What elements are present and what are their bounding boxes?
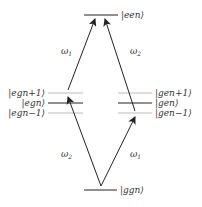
label-gen-minus: |gen−1⟩ [155,108,192,119]
omega-upper-right: ω2 [130,46,141,57]
omega-lower-left: ω2 [61,149,72,160]
label-egn-minus: |egn−1⟩ [8,108,45,119]
arrow-upper-right [105,19,135,111]
omega-upper-left: ω1 [61,46,72,57]
label-ggn: |ggn⟩ [120,185,144,196]
energy-level-diagram: |een⟩ |egn+1⟩ |egn⟩ |egn−1⟩ |gen+1⟩ |gen… [0,0,202,207]
label-een: |een⟩ [121,10,144,21]
arrow-lower-left [68,97,101,186]
omega-lower-right: ω1 [130,149,141,160]
